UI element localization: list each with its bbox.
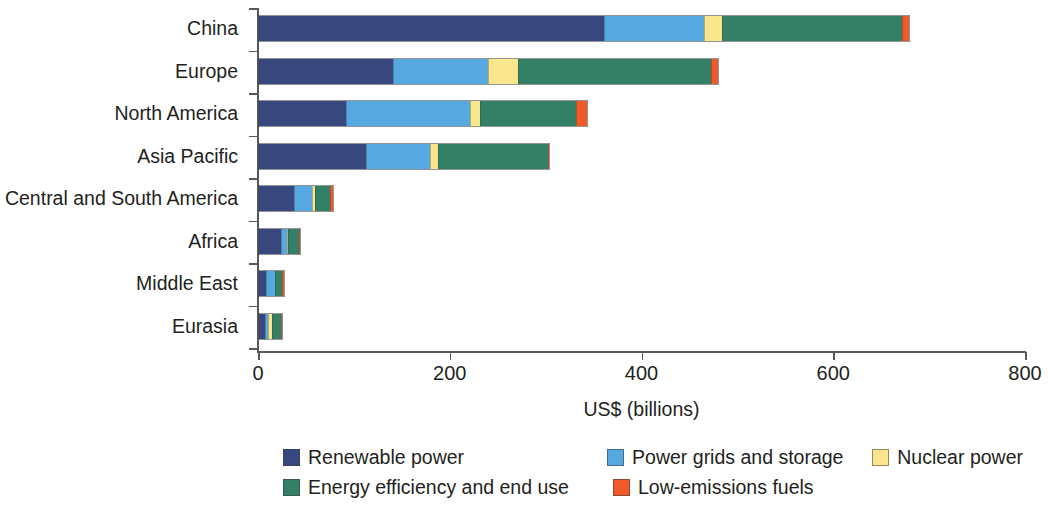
- stacked-bar[interactable]: [258, 100, 588, 127]
- x-axis-title: US$ (billions): [258, 398, 1025, 421]
- legend-item-energy-efficiency-and-end-use[interactable]: Energy efficiency and end use: [283, 476, 613, 498]
- x-axis-tick-label: 600: [817, 361, 850, 385]
- x-axis-tick-label: 200: [433, 361, 466, 385]
- bar-segment[interactable]: [259, 101, 346, 126]
- bar-segment[interactable]: [259, 271, 266, 296]
- y-axis-category-label: North America: [0, 100, 248, 127]
- y-axis-category-label: Central and South America: [0, 185, 248, 212]
- y-axis-tick: [249, 93, 258, 95]
- x-axis-tick-label: 400: [625, 361, 658, 385]
- legend-swatch-icon: [872, 449, 889, 466]
- y-axis-category-label: Africa: [0, 228, 248, 255]
- stacked-bar[interactable]: [258, 270, 285, 297]
- x-axis-tick: [450, 352, 452, 360]
- bar-segment[interactable]: [272, 314, 281, 339]
- bar-segment[interactable]: [902, 16, 909, 41]
- y-axis-tick: [249, 178, 258, 180]
- stacked-bar[interactable]: [258, 58, 719, 85]
- chart-legend: Renewable power Power grids and storage …: [283, 446, 1023, 506]
- legend-label: Low-emissions fuels: [638, 476, 814, 498]
- legend-swatch-icon: [607, 449, 624, 466]
- bar-segment[interactable]: [711, 59, 718, 84]
- stacked-bar-chart: ChinaEuropeNorth AmericaAsia PacificCent…: [0, 0, 1049, 506]
- y-axis-tick: [249, 221, 258, 223]
- bar-segment[interactable]: [470, 101, 480, 126]
- bar-segment[interactable]: [480, 101, 576, 126]
- x-axis-tick: [833, 352, 835, 360]
- plot-area: [258, 8, 1025, 350]
- bar-segment[interactable]: [330, 186, 333, 211]
- bar-segment[interactable]: [288, 229, 299, 254]
- bar-segment[interactable]: [430, 144, 438, 169]
- legend-label: Renewable power: [308, 446, 464, 468]
- bar-segment[interactable]: [259, 229, 281, 254]
- y-axis-category-label: Middle East: [0, 270, 248, 297]
- bar-segment[interactable]: [346, 101, 470, 126]
- y-axis-category-label: China: [0, 15, 248, 42]
- bar-segment[interactable]: [282, 271, 284, 296]
- bar-segment[interactable]: [438, 144, 548, 169]
- bar-segment[interactable]: [259, 16, 604, 41]
- x-axis-tick: [1025, 352, 1027, 360]
- legend-swatch-icon: [613, 479, 630, 496]
- y-axis-category-label: Asia Pacific: [0, 143, 248, 170]
- legend-swatch-icon: [283, 449, 300, 466]
- bar-segment[interactable]: [294, 186, 312, 211]
- bar-segment[interactable]: [315, 186, 330, 211]
- stacked-bar[interactable]: [258, 313, 283, 340]
- stacked-bar[interactable]: [258, 143, 550, 170]
- bar-segment[interactable]: [259, 59, 393, 84]
- stacked-bar[interactable]: [258, 228, 301, 255]
- bar-segment[interactable]: [259, 186, 294, 211]
- y-axis-tick: [249, 306, 258, 308]
- y-axis-tick: [249, 348, 258, 350]
- bar-segment[interactable]: [366, 144, 431, 169]
- bar-segment[interactable]: [518, 59, 712, 84]
- bar-segment[interactable]: [576, 101, 586, 126]
- y-axis-tick: [249, 136, 258, 138]
- stacked-bar[interactable]: [258, 185, 334, 212]
- legend-item-renewable-power[interactable]: Renewable power: [283, 446, 607, 468]
- legend-row-1: Renewable power Power grids and storage …: [283, 446, 1023, 476]
- bar-segment[interactable]: [259, 144, 366, 169]
- legend-item-power-grids-and-storage[interactable]: Power grids and storage: [607, 446, 872, 468]
- bar-segment[interactable]: [281, 314, 282, 339]
- x-axis-tick: [642, 352, 644, 360]
- bar-segment[interactable]: [266, 271, 275, 296]
- x-axis-tick: [258, 352, 260, 360]
- legend-label: Nuclear power: [897, 446, 1023, 468]
- bar-segment[interactable]: [299, 229, 300, 254]
- y-axis-tick: [249, 8, 258, 10]
- legend-label: Power grids and storage: [632, 446, 843, 468]
- bar-segment[interactable]: [704, 16, 721, 41]
- legend-label: Energy efficiency and end use: [308, 476, 569, 498]
- y-axis-tick: [249, 263, 258, 265]
- stacked-bar[interactable]: [258, 15, 910, 42]
- bar-segment[interactable]: [548, 144, 550, 169]
- bar-segment[interactable]: [393, 59, 488, 84]
- y-axis-tick: [249, 51, 258, 53]
- bar-segment[interactable]: [604, 16, 704, 41]
- x-axis-tick-label: 800: [1008, 361, 1041, 385]
- y-axis-category-label: Eurasia: [0, 313, 248, 340]
- legend-item-nuclear-power[interactable]: Nuclear power: [872, 446, 1023, 468]
- y-axis-category-label: Europe: [0, 58, 248, 85]
- legend-item-low-emissions-fuels[interactable]: Low-emissions fuels: [613, 476, 814, 498]
- legend-swatch-icon: [283, 479, 300, 496]
- bar-segment[interactable]: [722, 16, 903, 41]
- x-axis-tick-label: 0: [252, 361, 263, 385]
- bar-segment[interactable]: [488, 59, 518, 84]
- legend-row-2: Energy efficiency and end use Low-emissi…: [283, 476, 1023, 506]
- bar-segment[interactable]: [275, 271, 282, 296]
